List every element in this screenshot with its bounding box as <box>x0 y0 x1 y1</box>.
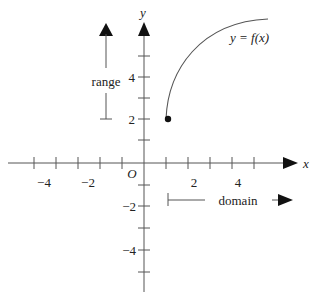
domain-label: domain <box>219 193 258 208</box>
x-tick-label: 4 <box>235 175 242 190</box>
domain-arrow-icon <box>278 194 293 206</box>
y-tick-label: −2 <box>122 199 136 214</box>
x-tick-label: −2 <box>81 175 95 190</box>
x-tick-label: −4 <box>37 175 51 190</box>
y-axis-arrow-icon <box>138 22 150 36</box>
curve-label: y = f(x) <box>228 30 269 45</box>
function-domain-range-diagram: −4 −2 2 4 x 4 2 −2 −4 y O y = f(x) <box>0 0 317 300</box>
x-axis-arrow-icon <box>283 157 298 169</box>
y-tick-label: −4 <box>122 243 136 258</box>
origin-label: O <box>127 166 137 181</box>
y-axis: 4 2 −2 −4 y <box>122 5 150 292</box>
range-annotation: range <box>92 23 121 119</box>
range-label: range <box>92 74 121 89</box>
x-axis-label: x <box>302 156 309 171</box>
x-axis: −4 −2 2 4 x <box>8 156 309 190</box>
domain-annotation: domain <box>168 193 293 208</box>
y-axis-label: y <box>138 5 146 20</box>
y-tick-label: 2 <box>129 112 136 127</box>
y-tick-label: 4 <box>129 70 136 85</box>
x-tick-label: 2 <box>191 175 198 190</box>
curve-start-point <box>165 116 171 122</box>
